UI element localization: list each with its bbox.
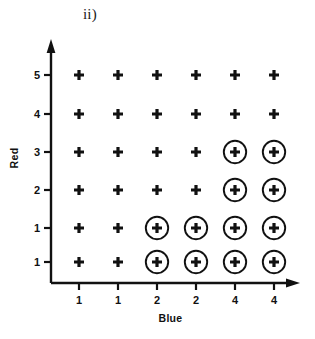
data-point <box>152 185 162 195</box>
data-point <box>113 70 123 80</box>
data-point <box>74 185 84 195</box>
data-point-circled <box>263 217 285 239</box>
data-point-circled <box>224 251 246 273</box>
x-tick-label: 1 <box>71 295 87 306</box>
data-point-circled <box>224 217 246 239</box>
data-point-circled <box>185 217 207 239</box>
data-point <box>113 257 123 267</box>
data-point-circled <box>224 141 246 163</box>
plot-canvas <box>0 0 315 339</box>
data-point <box>152 70 162 80</box>
data-point-circled <box>224 179 246 201</box>
x-tick-label: 2 <box>149 295 165 306</box>
x-tick-label: 4 <box>227 295 243 306</box>
data-point-circled <box>263 141 285 163</box>
data-point <box>230 70 240 80</box>
y-axis-arrowhead <box>47 39 56 53</box>
data-point <box>74 70 84 80</box>
data-point <box>269 109 279 119</box>
x-axis-title-text: Blue <box>159 312 183 324</box>
data-point <box>269 70 279 80</box>
y-axis-title: Red <box>8 128 20 188</box>
axis-lines <box>47 39 300 287</box>
data-point <box>152 109 162 119</box>
x-axis-title: Blue <box>0 312 315 324</box>
data-point <box>74 223 84 233</box>
data-point <box>191 147 201 157</box>
y-tick-label: 1 <box>26 257 40 268</box>
scatter-plot <box>0 0 315 339</box>
data-point-circled <box>263 179 285 201</box>
x-axis-arrowhead <box>286 279 300 288</box>
data-point <box>191 109 201 119</box>
y-tick-label: 1 <box>26 223 40 234</box>
data-point <box>74 109 84 119</box>
data-point <box>113 147 123 157</box>
data-point <box>74 147 84 157</box>
x-tick-label: 4 <box>266 295 282 306</box>
y-tick-label: 5 <box>26 70 40 81</box>
data-point <box>230 109 240 119</box>
y-tick-label: 2 <box>26 185 40 196</box>
data-point-circled <box>146 251 168 273</box>
data-point-circled <box>185 251 207 273</box>
data-point <box>113 185 123 195</box>
x-tick-label: 1 <box>110 295 126 306</box>
data-point <box>113 223 123 233</box>
figure-panel: ii) <box>0 0 315 339</box>
data-point <box>74 257 84 267</box>
data-point <box>152 147 162 157</box>
data-markers <box>74 70 285 273</box>
data-point <box>113 109 123 119</box>
y-tick-label: 4 <box>26 109 40 120</box>
data-point-circled <box>263 251 285 273</box>
data-point-circled <box>146 217 168 239</box>
data-point <box>191 185 201 195</box>
data-point <box>191 70 201 80</box>
x-tick-label: 2 <box>188 295 204 306</box>
y-tick-label: 3 <box>26 147 40 158</box>
